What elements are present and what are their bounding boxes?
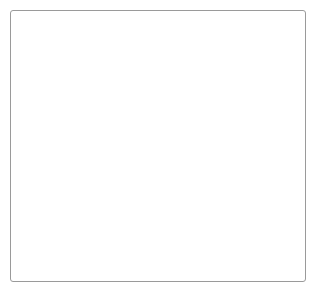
figure-root: Lumbar spine sagittal section illustrati… [0,0,318,294]
figure-border-frame [10,10,306,282]
